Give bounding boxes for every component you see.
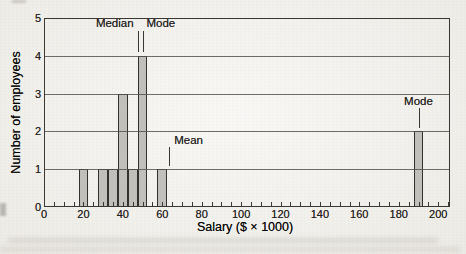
- x-axis-tick: [241, 202, 242, 208]
- x-tick-label-80: 80: [196, 209, 208, 220]
- x-axis-tick: [409, 202, 410, 208]
- x-axis-tick: [143, 202, 144, 208]
- y-tick-label-3: 3: [11, 88, 41, 99]
- x-axis-tick: [182, 202, 183, 208]
- x-axis-tick: [212, 202, 213, 208]
- x-axis-tick: [172, 202, 173, 208]
- annotation-pointer-mode-3: [419, 108, 420, 128]
- x-axis-tick: [54, 202, 55, 208]
- annotation-pointer-mode-1: [143, 31, 144, 52]
- x-axis-tick: [202, 202, 203, 208]
- x-axis-tick: [152, 202, 153, 208]
- x-axis-tick: [300, 202, 301, 208]
- y-tick-label-2: 2: [11, 126, 41, 137]
- x-axis-tick: [64, 202, 65, 208]
- x-axis-tick: [310, 202, 311, 208]
- x-axis-tick: [350, 202, 351, 208]
- x-axis-tick: [93, 202, 94, 208]
- x-tick-label-40: 40: [117, 209, 129, 220]
- annotation-label-mode-3: Mode: [404, 95, 433, 107]
- x-axis-tick: [261, 202, 262, 208]
- x-axis-tick: [320, 202, 321, 208]
- x-axis-tick: [281, 202, 282, 208]
- y-tick-label-5: 5: [11, 13, 41, 24]
- annotation-pointer-median-0: [138, 31, 139, 52]
- y-tick-label-4: 4: [11, 50, 41, 61]
- x-axis-tick: [419, 202, 420, 208]
- x-axis-tick: [113, 202, 114, 208]
- annotation-label-mode-1: Mode: [147, 17, 176, 29]
- x-axis-tick: [103, 202, 104, 208]
- x-axis-tick: [379, 202, 380, 208]
- plot-border: [44, 18, 450, 207]
- x-tick-label-120: 120: [271, 209, 289, 220]
- x-tick-label-20: 20: [77, 209, 89, 220]
- x-axis-tick: [428, 202, 429, 208]
- x-tick-label-100: 100: [232, 209, 250, 220]
- annotation-pointer-mean-2: [169, 147, 170, 166]
- x-axis-tick: [83, 202, 84, 208]
- annotation-label-mean-2: Mean: [174, 134, 203, 146]
- x-axis-tick: [221, 202, 222, 208]
- x-axis-tick: [133, 202, 134, 208]
- x-axis-tick: [448, 202, 449, 208]
- scan-artifact: [8, 238, 438, 243]
- x-axis-tick: [271, 202, 272, 208]
- x-axis-tick: [330, 202, 331, 208]
- x-axis-tick: [340, 202, 341, 208]
- x-axis-tick: [389, 202, 390, 208]
- x-axis-tick: [192, 202, 193, 208]
- x-tick-label-200: 200: [429, 209, 447, 220]
- x-axis-tick: [74, 202, 75, 208]
- x-axis-tick: [290, 202, 291, 208]
- x-axis-title: Salary ($ × 1000): [197, 221, 293, 234]
- x-axis-tick: [251, 202, 252, 208]
- scan-artifact: [12, 0, 26, 3]
- y-tick-label-0: 0: [11, 202, 41, 213]
- x-axis-tick: [438, 202, 439, 208]
- x-axis-tick: [123, 202, 124, 208]
- x-axis-tick: [162, 202, 163, 208]
- x-axis-tick: [399, 202, 400, 208]
- annotation-label-median-0: Median: [96, 17, 134, 29]
- x-axis-tick: [231, 202, 232, 208]
- scan-artifact: [0, 247, 460, 252]
- x-tick-label-140: 140: [311, 209, 329, 220]
- x-tick-label-160: 160: [350, 209, 368, 220]
- x-axis-tick: [359, 202, 360, 208]
- y-tick-label-1: 1: [11, 164, 41, 175]
- scanned-histogram-figure: Number of employees Salary ($ × 1000) 02…: [0, 0, 466, 254]
- x-tick-label-60: 60: [156, 209, 168, 220]
- x-tick-label-180: 180: [390, 209, 408, 220]
- x-axis-tick: [369, 202, 370, 208]
- scan-artifact: [0, 203, 6, 216]
- x-tick-label-0: 0: [41, 209, 47, 220]
